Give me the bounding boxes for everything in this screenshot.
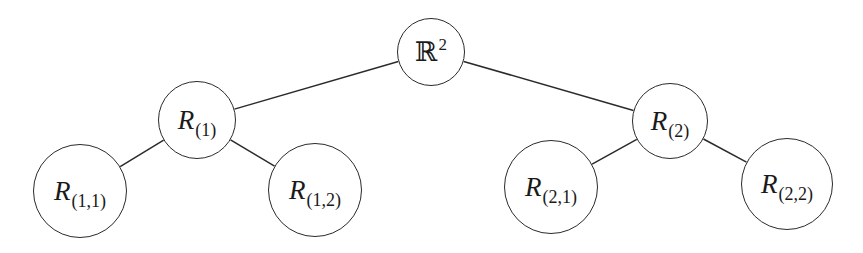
root-node-label: ℝ2 — [415, 39, 447, 66]
node-r-2-2: R(2,2) — [741, 138, 833, 230]
node-r-2-1-subscript: (2,1) — [543, 187, 578, 207]
node-r-2-1-symbol: R — [525, 172, 542, 202]
node-r-2-symbol: R — [651, 106, 668, 136]
node-r-1-2-label: R(1,2) — [289, 177, 341, 204]
node-r-1-2-symbol: R — [289, 175, 306, 205]
node-r-2-1: R(2,1) — [504, 140, 598, 234]
node-r-1: R(1) — [158, 81, 236, 159]
node-r-1-2: R(1,2) — [268, 143, 362, 237]
edge-r2-to-r22 — [703, 139, 746, 162]
edge-root-to-r2 — [464, 61, 634, 110]
edge-root-to-r1 — [234, 61, 398, 109]
node-r-2-2-subscript: (2,2) — [779, 184, 814, 204]
partition-tree-diagram: ℝ2 R(1) R(2) R(1,1) R(1,2) R(2,1) R(2,2) — [0, 0, 863, 253]
node-r-1-1-symbol: R — [54, 176, 71, 206]
node-r-2-label: R(2) — [651, 108, 690, 135]
node-r-2-2-symbol: R — [761, 169, 778, 199]
edge-r2-to-r21 — [592, 139, 637, 164]
node-r-2: R(2) — [632, 83, 708, 159]
node-r-1-1-subscript: (1,1) — [72, 191, 107, 211]
node-r-2-1-label: R(2,1) — [525, 174, 577, 201]
edge-r1-to-r11 — [120, 140, 163, 166]
node-r-2-subscript: (2) — [668, 121, 689, 141]
node-r-1-subscript: (1) — [195, 120, 216, 140]
node-r-1-1-label: R(1,1) — [54, 178, 106, 205]
node-r-1-symbol: R — [178, 105, 195, 135]
node-r-2-2-label: R(2,2) — [761, 171, 813, 198]
root-symbol: ℝ — [415, 37, 437, 67]
node-r-1-label: R(1) — [178, 107, 217, 134]
node-r-1-2-subscript: (1,2) — [307, 190, 342, 210]
root-superscript: 2 — [438, 35, 447, 54]
root-node-r2-plane: ℝ2 — [397, 18, 465, 86]
node-r-1-1: R(1,1) — [33, 144, 127, 238]
edge-r1-to-r12 — [231, 140, 275, 166]
